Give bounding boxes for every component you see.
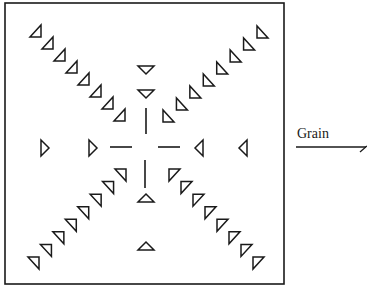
triangle-diag-top-left-4 (78, 73, 89, 85)
triangle-diag-top-right-7 (163, 110, 174, 122)
triangle-diag-top-left-0 (30, 25, 41, 37)
triangle-diag-top-right-2 (230, 50, 241, 62)
triangle-diag-top-left-1 (42, 37, 53, 49)
triangle-diag-top-right-1 (244, 38, 255, 50)
specimen-box (5, 3, 284, 284)
triangle-diag-top-right-0 (257, 26, 268, 38)
triangle-top-1 (138, 90, 154, 98)
triangle-bottom-1 (138, 242, 154, 250)
triangle-diag-top-right-3 (217, 62, 228, 74)
triangle-diag-top-right-6 (176, 98, 187, 110)
triangle-top-0 (138, 66, 154, 74)
triangle-diag-bottom-right-6 (181, 182, 192, 194)
triangle-diag-bottom-right-0 (253, 257, 264, 269)
triangle-bottom-0 (138, 194, 154, 202)
triangle-diag-top-left-3 (66, 61, 77, 73)
triangle-diag-bottom-right-5 (193, 194, 204, 206)
grain-arrow (296, 146, 367, 152)
triangle-left-1 (89, 140, 97, 156)
grain-orientation-diagram (0, 0, 367, 288)
triangle-markers (28, 25, 268, 269)
triangle-diag-bottom-right-7 (169, 169, 180, 181)
triangle-diag-top-left-2 (54, 49, 65, 61)
triangle-right-1 (239, 140, 247, 156)
triangle-diag-top-left-6 (102, 97, 113, 109)
triangle-diag-top-left-5 (90, 85, 101, 97)
triangle-diag-bottom-right-1 (241, 244, 252, 256)
triangle-left-0 (41, 140, 49, 156)
triangle-diag-bottom-left-4 (78, 207, 89, 219)
triangle-diag-bottom-left-3 (65, 219, 76, 231)
triangle-diag-top-left-7 (114, 109, 125, 121)
triangle-diag-bottom-left-0 (28, 257, 39, 269)
triangle-diag-bottom-left-6 (103, 182, 114, 194)
triangle-diag-bottom-left-7 (115, 169, 126, 181)
triangle-right-0 (195, 140, 203, 156)
triangle-diag-top-right-5 (190, 86, 201, 98)
triangle-diag-bottom-left-1 (40, 244, 51, 256)
triangle-diag-bottom-left-2 (53, 232, 64, 244)
triangle-diag-bottom-right-4 (205, 207, 216, 219)
triangle-diag-top-right-4 (203, 74, 214, 86)
grain-label: Grain (297, 126, 329, 142)
triangle-diag-bottom-right-2 (229, 232, 240, 244)
triangle-diag-bottom-right-3 (217, 219, 228, 231)
triangle-diag-bottom-left-5 (90, 194, 101, 206)
